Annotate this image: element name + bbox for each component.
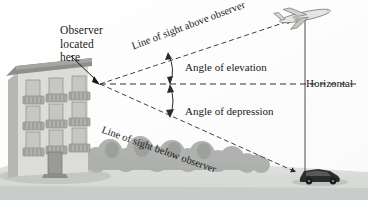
angle-of-elevation-label: Angle of elevation <box>185 61 267 73</box>
angle-of-depression-label: Angle of depression <box>185 105 274 117</box>
observer-label-line1: Observer <box>60 24 103 38</box>
observer-label-line2: located <box>60 38 103 52</box>
diagram-canvas: Observer located here Line of sight abov… <box>0 0 368 200</box>
observer-label-line3: here <box>60 51 103 65</box>
observer-label: Observer located here <box>60 24 103 65</box>
horizontal-label: Horizontal <box>306 77 353 89</box>
